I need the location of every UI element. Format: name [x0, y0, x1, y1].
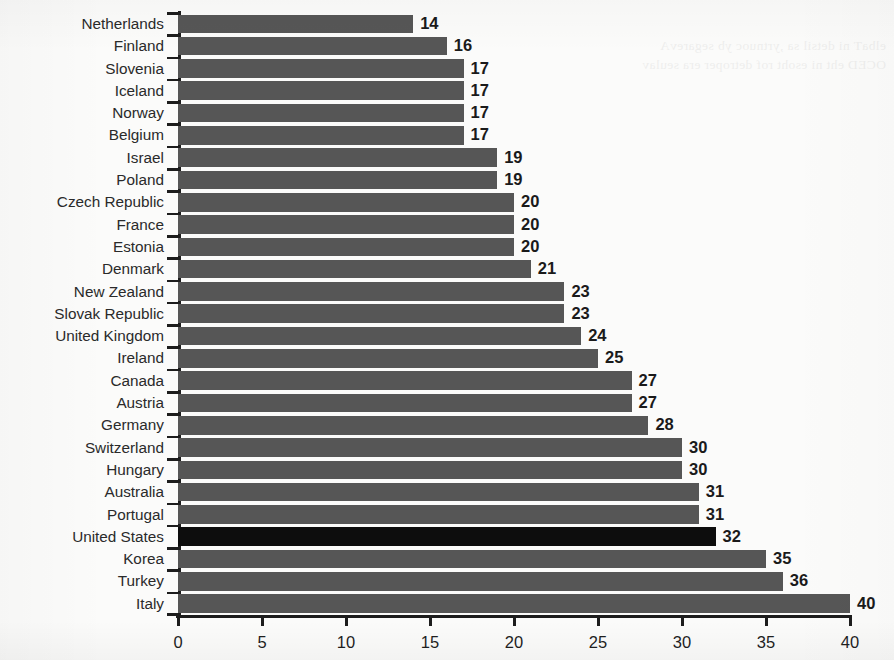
x-axis-tick — [177, 615, 180, 626]
x-axis-tick — [261, 615, 264, 626]
category-label: France — [0, 215, 164, 235]
category-label: Netherlands — [0, 14, 164, 34]
x-axis-tick — [681, 615, 684, 626]
bar-row: Canada27 — [178, 370, 850, 392]
bar-value-label: 40 — [857, 593, 875, 614]
bar — [178, 572, 783, 591]
bar-value-label: 19 — [504, 147, 522, 168]
bar — [178, 550, 766, 569]
x-axis-tick-label: 25 — [589, 633, 607, 652]
bar-value-label: 20 — [521, 191, 539, 212]
x-axis-tick-label: 30 — [673, 633, 691, 652]
category-label: Belgium — [0, 125, 164, 145]
y-axis-tick — [167, 413, 178, 416]
category-label: Czech Republic — [0, 192, 164, 212]
bar — [178, 594, 850, 613]
bar-value-label: 14 — [420, 13, 438, 34]
category-label: Germany — [0, 415, 164, 435]
bar — [178, 327, 581, 346]
bar-value-label: 20 — [521, 214, 539, 235]
bar-row: New Zealand23 — [178, 281, 850, 303]
x-axis-tick — [513, 615, 516, 626]
category-label: Canada — [0, 371, 164, 391]
bar-value-label: 17 — [471, 102, 489, 123]
bar-row: Slovak Republic23 — [178, 303, 850, 325]
bar-row: Turkey36 — [178, 570, 850, 592]
x-axis-tick-label: 10 — [337, 633, 355, 652]
plot-area: Netherlands14Finland16Slovenia17Iceland1… — [178, 13, 850, 615]
y-axis-tick — [167, 123, 178, 126]
y-axis-tick — [167, 369, 178, 372]
category-label: United States — [0, 527, 164, 547]
category-label: Australia — [0, 482, 164, 502]
y-axis-tick — [167, 146, 178, 149]
x-axis-tick-label: 0 — [173, 633, 182, 652]
bar — [178, 193, 514, 212]
y-axis-tick — [167, 79, 178, 82]
bar-row: Slovenia17 — [178, 58, 850, 80]
bar-row: Korea35 — [178, 548, 850, 570]
y-axis-tick — [167, 213, 178, 216]
x-axis-tick — [429, 615, 432, 626]
bar-value-label: 35 — [773, 548, 791, 569]
y-axis-tick — [167, 57, 178, 60]
bar-row: Australia31 — [178, 481, 850, 503]
chart-page: elbaT ni detsil sa ,yrtnuoc yb segarevA … — [0, 0, 894, 660]
bar-value-label: 28 — [655, 414, 673, 435]
x-axis-tick-label: 40 — [841, 633, 859, 652]
y-axis-tick — [167, 569, 178, 572]
bar-value-label: 32 — [723, 526, 741, 547]
bar — [178, 349, 598, 368]
bar — [178, 394, 632, 413]
bar-row: Denmark21 — [178, 258, 850, 280]
category-label: Italy — [0, 594, 164, 614]
y-axis-tick — [167, 480, 178, 483]
bar-value-label: 23 — [571, 281, 589, 302]
bar-value-label: 25 — [605, 347, 623, 368]
category-label: Hungary — [0, 460, 164, 480]
x-axis-tick-label: 35 — [757, 633, 775, 652]
bar — [178, 483, 699, 502]
y-axis-tick — [167, 34, 178, 37]
category-label: Iceland — [0, 81, 164, 101]
bar-value-label: 27 — [639, 392, 657, 413]
y-axis-tick — [167, 168, 178, 171]
bar-value-label: 31 — [706, 481, 724, 502]
bar — [178, 371, 632, 390]
y-axis-tick — [167, 280, 178, 283]
bar-value-label: 17 — [471, 80, 489, 101]
x-axis-tick-label: 20 — [505, 633, 523, 652]
bar-row: Portugal31 — [178, 504, 850, 526]
bar-row: Austria27 — [178, 392, 850, 414]
bar-row: Hungary30 — [178, 459, 850, 481]
bar-value-label: 19 — [504, 169, 522, 190]
category-label: Denmark — [0, 259, 164, 279]
category-label: Switzerland — [0, 438, 164, 458]
y-axis-tick — [167, 257, 178, 260]
category-label: Portugal — [0, 505, 164, 525]
bar-value-label: 16 — [454, 35, 472, 56]
bar — [178, 171, 497, 190]
bar-row: Norway17 — [178, 102, 850, 124]
category-label: Slovak Republic — [0, 304, 164, 324]
bar-value-label: 30 — [689, 459, 707, 480]
y-axis-tick — [167, 503, 178, 506]
category-label: Austria — [0, 393, 164, 413]
bar-row: Ireland25 — [178, 347, 850, 369]
x-axis-tick — [849, 615, 852, 626]
bar — [178, 438, 682, 457]
bar — [178, 126, 464, 145]
bar — [178, 81, 464, 100]
bar-value-label: 31 — [706, 504, 724, 525]
bar-value-label: 23 — [571, 303, 589, 324]
x-axis-tick — [765, 615, 768, 626]
bar-value-label: 36 — [790, 570, 808, 591]
bar — [178, 505, 699, 524]
y-axis-tick — [167, 12, 178, 15]
bar-row: United States32 — [178, 526, 850, 548]
bar-row: Israel19 — [178, 147, 850, 169]
y-axis-tick — [167, 302, 178, 305]
bar-value-label: 27 — [639, 370, 657, 391]
x-axis-tick — [597, 615, 600, 626]
bar-row: Poland19 — [178, 169, 850, 191]
